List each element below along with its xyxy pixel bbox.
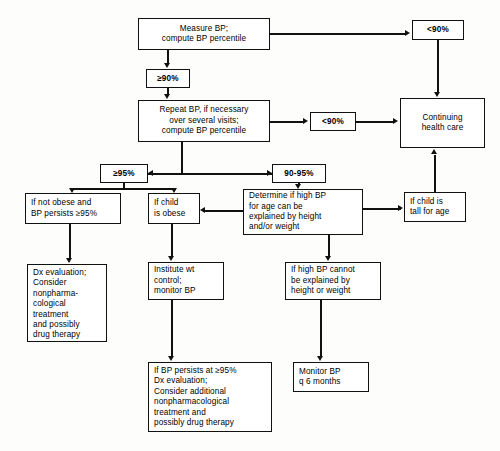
edge-repeat-to-lt90mid (270, 121, 304, 123)
label-p90-95-text: 90-95% (284, 169, 313, 179)
node-institute-wt: Institute wt control; monitor BP (148, 262, 224, 300)
edge-measure-to-ge90 (167, 50, 169, 63)
arrowhead-determine-to-child-tall (398, 205, 403, 211)
edge-lt90top-to-care (437, 40, 439, 92)
node-determine-high-bp: Determine if high BP for age can be expl… (243, 189, 363, 235)
arrowhead-not-obese-to-dx (66, 258, 72, 263)
arrowhead-institute-to-bp-persists (168, 356, 174, 361)
edge-determine-to-child-tall (363, 208, 401, 210)
node-bp-persists: If BP persists at ≥95% Dx evaluation; Co… (148, 362, 272, 432)
arrowhead-cannot-explain-to-monitor (317, 356, 323, 361)
label-lt90-mid-text: <90% (322, 117, 344, 127)
edge-ge95-split-bus (72, 188, 176, 190)
node-cannot-explain: If high BP cannot be explained by height… (285, 262, 381, 300)
node-continuing-care-label: Continuing health care (422, 113, 464, 134)
label-ge95: ≥95% (100, 164, 148, 183)
edge-institute-to-bp-persists (171, 300, 173, 356)
label-lt90-mid: <90% (310, 112, 356, 131)
flowchart-canvas: Measure BP; compute BP percentile <90% ≥… (0, 0, 500, 451)
node-cannot-explain-label: If high BP cannot be explained by height… (291, 265, 355, 296)
arrowhead-measure-to-ge90 (164, 63, 170, 68)
edge-measure-to-lt90top (270, 33, 406, 35)
arrowhead-child-tall-to-care (431, 149, 437, 154)
node-child-tall: If child is tall for age (404, 192, 466, 222)
node-child-obese: If child is obese (148, 193, 200, 224)
arrowhead-lt90top-to-care (434, 92, 440, 97)
node-repeat-bp: Repeat BP, if necessary over several vis… (138, 100, 270, 142)
edge-cannot-explain-to-monitor (320, 300, 322, 356)
node-not-obese-label: If not obese and BP persists ≥95% (31, 198, 97, 219)
node-repeat-bp-label: Repeat BP, if necessary over several vis… (159, 105, 248, 136)
edge-branch-bus (148, 173, 278, 175)
edge-repeat-to-branchbus (181, 142, 183, 174)
arrowhead-lt90mid-to-care (393, 118, 398, 124)
node-not-obese: If not obese and BP persists ≥95% (25, 193, 121, 224)
label-p90-95: 90-95% (272, 164, 326, 183)
node-institute-wt-label: Institute wt control; monitor BP (154, 265, 196, 296)
node-monitor-bp: Monitor BP q 6 months (293, 362, 369, 392)
label-ge90-text: ≥90% (157, 74, 179, 84)
edge-determine-to-child-obese (203, 210, 245, 212)
edge-not-obese-to-dx (69, 224, 71, 258)
node-bp-persists-label: If BP persists at ≥95% Dx evaluation; Co… (154, 366, 237, 428)
node-child-tall-label: If child is tall for age (410, 197, 449, 218)
node-measure-bp: Measure BP; compute BP percentile (138, 18, 270, 50)
arrowhead-measure-to-lt90top (405, 30, 410, 36)
arrowhead-repeat-to-lt90mid (303, 118, 308, 124)
label-lt90-top: <90% (412, 20, 464, 40)
node-continuing-care: Continuing health care (400, 98, 485, 148)
node-determine-high-bp-label: Determine if high BP for age can be expl… (249, 191, 326, 233)
node-monitor-bp-label: Monitor BP q 6 months (299, 367, 341, 388)
arrowhead-branch-to-ge95 (148, 170, 153, 176)
edge-lt90mid-to-care (356, 121, 394, 123)
arrowhead-determine-to-cannot-explain (325, 256, 331, 261)
node-measure-bp-label: Measure BP; compute BP percentile (162, 24, 246, 45)
node-child-obese-label: If child is obese (154, 198, 185, 219)
arrowhead-determine-to-child-obese (200, 207, 205, 213)
edge-child-tall-to-care (434, 155, 436, 193)
node-dx-evaluation-label: Dx evaluation; Consider nonpharma- colog… (33, 268, 86, 341)
label-ge90: ≥90% (146, 69, 190, 88)
label-ge95-text: ≥95% (113, 169, 135, 179)
arrowhead-ge90-to-repeat (164, 94, 170, 99)
edge-child-obese-to-institute (171, 224, 173, 256)
arrowhead-child-obese-to-institute (168, 256, 174, 261)
label-lt90-top-text: <90% (427, 25, 449, 35)
edge-determine-to-cannot-explain (328, 235, 330, 256)
node-dx-evaluation: Dx evaluation; Consider nonpharma- colog… (27, 264, 107, 342)
